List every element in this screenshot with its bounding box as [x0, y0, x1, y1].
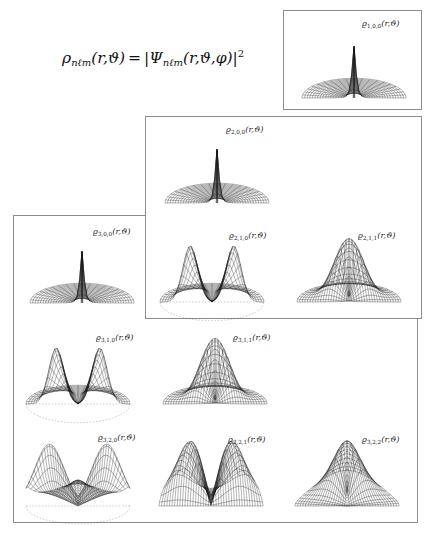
formula-lhs-sub: nℓm: [71, 57, 91, 68]
plot-panel-310: [16, 334, 140, 416]
formula-rho: ρ: [62, 49, 71, 67]
plot-label-100: ϱ1,0,0(r,ϑ): [362, 18, 400, 29]
label-args-310: (r,ϑ): [115, 332, 133, 342]
plot-label-300: ϱ3,0,0(r,ϑ): [93, 226, 131, 237]
label-sub-320: 3,2,0: [103, 437, 117, 443]
formula-psi: Ψ: [149, 49, 163, 67]
formula-rhs-args: (r,ϑ,φ): [183, 49, 233, 67]
plot-panel-320: [16, 430, 140, 518]
plot-label-322: ϱ3,2,2(r,ϑ): [362, 434, 400, 445]
label-args-322: (r,ϑ): [381, 434, 399, 444]
plot-label-211: ϱ2,1,1(r,ϑ): [358, 230, 396, 241]
plot-label-320: ϱ3,2,0(r,ϑ): [98, 432, 136, 443]
surface-plot-311: [153, 334, 277, 416]
plot-label-311: ϱ3,1,1(r,ϑ): [233, 332, 271, 343]
label-args-200: (r,ϑ): [245, 124, 263, 134]
label-args-211: (r,ϑ): [377, 230, 395, 240]
plot-panel-300: [20, 245, 144, 313]
label-sub-310: 3,1,0: [101, 337, 115, 343]
surface-plot-320: [16, 430, 140, 518]
label-sub-300: 3,0,0: [98, 231, 112, 237]
label-args-300: (r,ϑ): [112, 226, 130, 236]
plot-label-321: ϱ3,2,1(r,ϑ): [228, 434, 266, 445]
label-sub-321: 3,2,1: [233, 439, 247, 445]
label-args-321: (r,ϑ): [247, 434, 265, 444]
label-sub-211: 2,1,1: [363, 235, 377, 241]
plot-panel-100: [292, 40, 416, 108]
label-sub-210: 2,1,0: [234, 235, 248, 241]
label-sub-322: 3,2,2: [367, 439, 381, 445]
plot-label-310: ϱ3,1,0(r,ϑ): [96, 332, 134, 343]
surface-plot-200: [155, 145, 279, 213]
surface-plot-210: [150, 232, 274, 314]
surface-plot-211: [287, 232, 411, 314]
plot-panel-311: [153, 334, 277, 416]
label-args-210: (r,ϑ): [248, 230, 266, 240]
label-sub-200: 2,0,0: [231, 129, 245, 135]
formula-lhs-args: (r,ϑ): [91, 49, 125, 67]
plot-label-200: ϱ2,0,0(r,ϑ): [226, 124, 264, 135]
label-sub-311: 3,1,1: [238, 337, 252, 343]
formula-rhs-sub: nℓm: [163, 57, 183, 68]
label-args-100: (r,ϑ): [381, 18, 399, 28]
plot-label-210: ϱ2,1,0(r,ϑ): [229, 230, 267, 241]
surface-plot-300: [20, 245, 144, 313]
plot-panel-210: [150, 232, 274, 314]
surface-plot-310: [16, 334, 140, 416]
surface-plot-100: [292, 40, 416, 108]
figure-canvas: ρnℓm(r,ϑ)=|Ψnℓm(r,ϑ,φ)|2 ϱ1,0,0(r,ϑ) ϱ2,…: [0, 0, 429, 548]
label-args-311: (r,ϑ): [252, 332, 270, 342]
plot-panel-200: [155, 145, 279, 213]
formula-exponent: 2: [238, 48, 244, 59]
plot-panel-211: [287, 232, 411, 314]
formula-equals: =: [125, 49, 144, 67]
label-sub-100: 1,0,0: [367, 23, 381, 29]
label-args-320: (r,ϑ): [117, 432, 135, 442]
density-formula: ρnℓm(r,ϑ)=|Ψnℓm(r,ϑ,φ)|2: [62, 48, 244, 68]
